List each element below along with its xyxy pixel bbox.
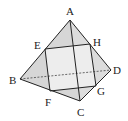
- label-B: B: [9, 74, 16, 86]
- label-H: H: [93, 36, 101, 48]
- label-A: A: [66, 5, 74, 17]
- label-G: G: [97, 85, 105, 97]
- label-C: C: [77, 106, 84, 118]
- label-E: E: [34, 39, 41, 51]
- section-EFGH: [45, 44, 96, 91]
- label-D: D: [113, 64, 121, 76]
- tetrahedron-diagram: A B C D E F G H: [0, 0, 128, 121]
- label-F: F: [45, 96, 51, 108]
